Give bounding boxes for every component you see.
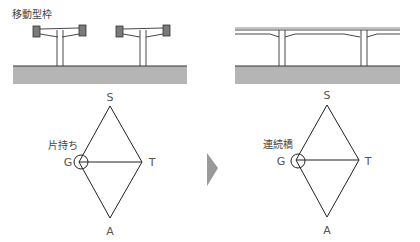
left-ground — [13, 66, 187, 84]
right-ground — [235, 66, 400, 84]
left-diamond: S G T A 片持ち — [48, 91, 156, 238]
form-block-right — [163, 25, 170, 36]
left-caption: 移動型枠 — [12, 8, 52, 20]
node-t-label: T — [364, 155, 372, 168]
node-g-label: G — [64, 156, 73, 169]
cantilever-label: 片持ち — [48, 139, 78, 151]
node-s-label: S — [107, 91, 114, 104]
triangle-right-arrow-icon — [207, 153, 218, 186]
node-g-label: G — [277, 155, 286, 168]
form-block-left — [116, 26, 123, 37]
moving-form-2 — [116, 25, 170, 66]
right-diamond: S G T A 連続橋 — [263, 89, 372, 237]
moving-form-1 — [33, 25, 86, 66]
node-a-label: A — [323, 224, 331, 237]
continuous-bridge-label: 連続橋 — [263, 138, 293, 150]
node-s-label: S — [324, 89, 331, 102]
diagram-canvas: 移動型枠 — [0, 0, 420, 242]
node-t-label: T — [148, 156, 156, 169]
continuous-bridge — [235, 28, 400, 66]
form-block-left — [33, 26, 40, 37]
node-a-label: A — [106, 225, 114, 238]
form-block-right — [79, 25, 86, 36]
